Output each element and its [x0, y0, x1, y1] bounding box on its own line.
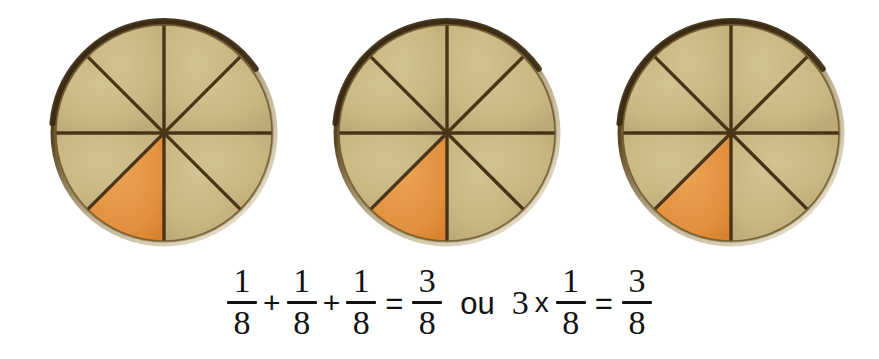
fraction-term-3: 1 8 — [346, 264, 376, 340]
fraction-denominator: 8 — [351, 306, 372, 341]
times-operator: x — [532, 289, 552, 317]
fraction-numerator: 3 — [417, 264, 438, 299]
fraction-denominator: 8 — [232, 306, 253, 341]
plus-operator-2: + — [321, 288, 343, 318]
fraction-circle-svg — [331, 17, 563, 249]
fraction-term-2: 1 8 — [287, 264, 317, 340]
addition-expression: 1 8 + 1 8 + 1 8 = 3 8 — [223, 264, 446, 340]
fraction-circle-svg — [615, 17, 847, 249]
fraction-numerator: 1 — [232, 264, 253, 299]
fraction-term-1: 1 8 — [227, 264, 257, 340]
fraction-circle-svg — [48, 17, 280, 249]
fraction-result-left: 3 8 — [412, 264, 442, 340]
multiplier-value: 3 — [509, 286, 532, 320]
fraction-circle-1 — [48, 17, 280, 249]
multiplication-expression: 3 x 1 8 = 3 8 — [509, 264, 656, 340]
fraction-factor: 1 8 — [556, 264, 586, 340]
fraction-numerator: 3 — [626, 264, 647, 299]
fraction-diagram-page: 1 8 + 1 8 + 1 8 = 3 8 ou — [0, 0, 879, 359]
fraction-numerator: 1 — [351, 264, 372, 299]
fraction-circle-2 — [331, 17, 563, 249]
equals-operator-right: = — [590, 288, 618, 319]
fraction-denominator: 8 — [291, 306, 312, 341]
fraction-numerator: 1 — [291, 264, 312, 299]
fraction-result-right: 3 8 — [622, 264, 652, 340]
fraction-denominator: 8 — [560, 306, 581, 341]
fraction-circle-3 — [615, 17, 847, 249]
equals-operator-left: = — [380, 288, 408, 319]
fraction-numerator: 1 — [560, 264, 581, 299]
connector-ou: ou — [446, 288, 508, 319]
fraction-denominator: 8 — [626, 306, 647, 341]
equation-row: 1 8 + 1 8 + 1 8 = 3 8 ou — [0, 248, 879, 356]
fraction-denominator: 8 — [417, 306, 438, 341]
plus-operator-1: + — [261, 288, 283, 318]
